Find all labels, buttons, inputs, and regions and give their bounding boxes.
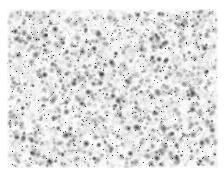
micrograph-panel bbox=[7, 9, 218, 168]
micrograph-image bbox=[7, 9, 218, 168]
figure-root: Grayscale speckle micrograph bbox=[0, 0, 224, 176]
